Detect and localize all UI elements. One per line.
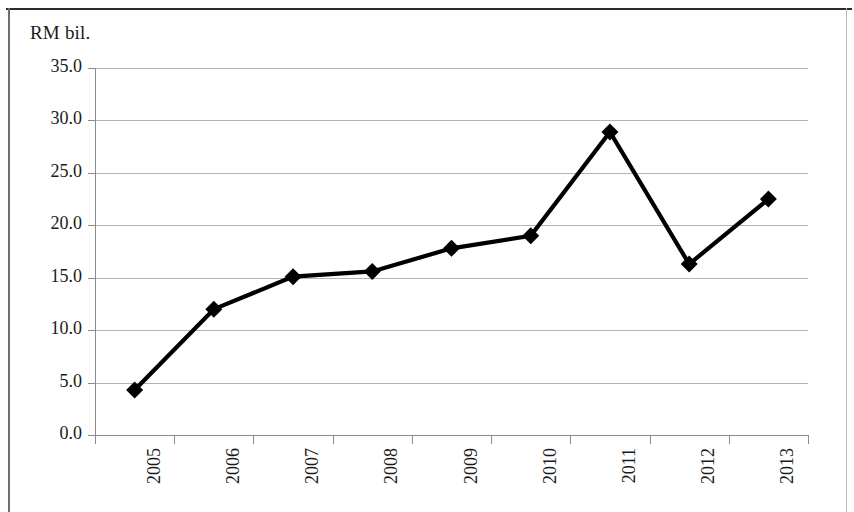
y-tick-label: 35.0 xyxy=(20,56,82,77)
y-tick-mark xyxy=(88,68,96,69)
x-tick-mark xyxy=(491,435,492,444)
gridline xyxy=(95,330,808,331)
x-tick-label: 2005 xyxy=(144,448,165,484)
y-tick-label: 20.0 xyxy=(20,213,82,234)
x-tick-label: 2011 xyxy=(619,448,640,483)
y-tick-mark xyxy=(88,278,96,279)
page-frame-top-border xyxy=(6,8,852,10)
y-tick-label: 0.0 xyxy=(20,423,82,444)
y-tick-label: 25.0 xyxy=(20,161,82,182)
x-tick-mark xyxy=(650,435,651,444)
y-tick-label: 30.0 xyxy=(20,108,82,129)
x-tick-mark xyxy=(95,435,96,444)
page-frame-right-border xyxy=(846,8,847,512)
y-tick-mark xyxy=(88,173,96,174)
page-frame-left-border xyxy=(8,8,10,512)
gridline xyxy=(95,278,808,279)
gridline xyxy=(95,383,808,384)
x-tick-mark xyxy=(333,435,334,444)
x-tick-mark xyxy=(253,435,254,444)
chart-page: RM bil. 35.030.025.020.015.010.05.00.0 2… xyxy=(0,0,854,512)
x-tick-label: 2010 xyxy=(540,448,561,484)
y-tick-mark xyxy=(88,383,96,384)
y-tick-mark xyxy=(88,330,96,331)
x-tick-label: 2006 xyxy=(223,448,244,484)
y-tick-label: 5.0 xyxy=(20,371,82,392)
x-tick-mark xyxy=(729,435,730,444)
y-tick-label: 15.0 xyxy=(20,266,82,287)
gridline xyxy=(95,173,808,174)
gridline xyxy=(95,68,808,69)
x-tick-mark xyxy=(808,435,809,444)
x-tick-mark xyxy=(570,435,571,444)
gridline xyxy=(95,225,808,226)
x-tick-mark xyxy=(412,435,413,444)
x-tick-label: 2008 xyxy=(381,448,402,484)
y-tick-mark xyxy=(88,120,96,121)
gridline xyxy=(95,120,808,121)
x-tick-mark xyxy=(174,435,175,444)
x-axis-line xyxy=(95,435,809,436)
y-tick-label: 10.0 xyxy=(20,318,82,339)
x-tick-label: 2007 xyxy=(302,448,323,484)
plot-area xyxy=(95,68,808,435)
chart-axis-unit-title: RM bil. xyxy=(30,22,91,44)
y-axis-line xyxy=(95,68,96,436)
x-tick-label: 2013 xyxy=(777,448,798,484)
x-tick-label: 2012 xyxy=(698,448,719,484)
y-tick-mark xyxy=(88,225,96,226)
x-tick-label: 2009 xyxy=(461,448,482,484)
